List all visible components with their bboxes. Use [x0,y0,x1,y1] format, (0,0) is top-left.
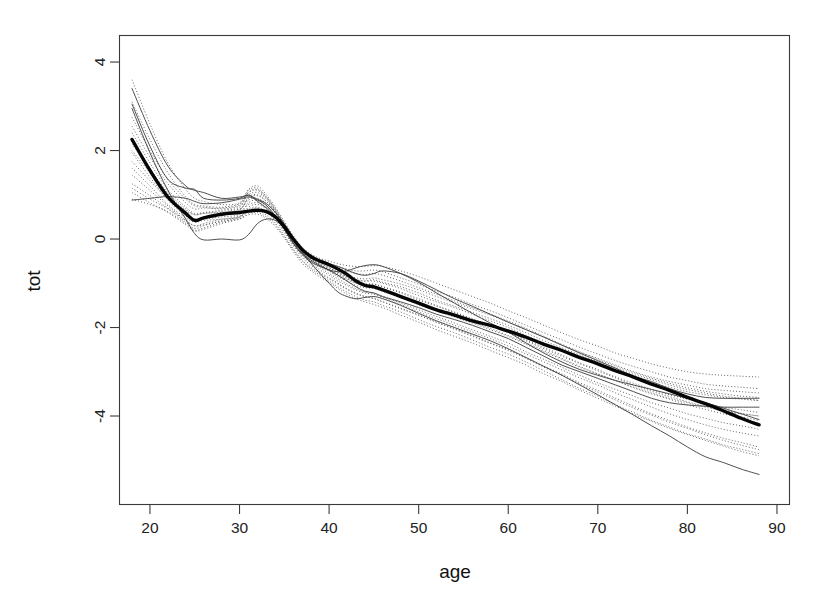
curves-layer [132,80,759,475]
curve-individual-curve-1 [132,89,759,399]
chart-figure: 2030405060708090 420-2-4 age tot [0,0,837,611]
x-tick-label: 50 [410,519,428,536]
curve-bootstrap-curve-3 [132,139,759,400]
y-axis-ticks [110,62,119,416]
y-axis-title: tot [23,270,44,292]
curve-individual-curve-4 [132,109,759,475]
y-axis-tick-labels: 420-2-4 [91,57,108,423]
scatter-line-plot: 2030405060708090 420-2-4 age tot [0,0,837,611]
x-tick-label: 40 [320,519,338,536]
curve-bootstrap-curve-7 [132,193,759,454]
y-tick-label: 2 [91,146,108,155]
y-tick-label: 4 [91,57,108,66]
x-tick-label: 80 [679,519,697,536]
curve-bootstrap-curve-10 [132,151,759,413]
x-tick-label: 90 [768,519,786,536]
curve-bootstrap-curve-4 [132,153,759,416]
curve-bootstrap-curve-13 [132,199,759,456]
curve-bootstrap-curve-14 [132,133,759,398]
curve-bootstrap-curve-16 [132,188,759,449]
curve-population-mean-curve [132,139,759,424]
curve-bootstrap-curve-2 [132,126,759,388]
x-axis-tick-labels: 2030405060708090 [141,519,786,536]
curve-individual-curve-3 [132,197,759,420]
x-tick-label: 60 [500,519,518,536]
curve-individual-curve-2 [132,104,759,407]
y-tick-label: 0 [91,234,108,243]
x-tick-label: 70 [589,519,607,536]
x-axis-title: age [439,561,471,582]
curve-bootstrap-curve-15 [132,144,759,416]
y-tick-label: -4 [91,409,108,423]
x-tick-label: 30 [231,519,249,536]
curve-bootstrap-curve-1 [132,80,759,377]
curve-bootstrap-curve-8 [132,102,759,393]
y-tick-label: -2 [91,321,108,335]
x-axis-ticks [150,505,777,514]
curve-bootstrap-curve-9 [132,117,759,400]
curve-bootstrap-curve-6 [132,184,759,447]
x-tick-label: 20 [141,519,159,536]
